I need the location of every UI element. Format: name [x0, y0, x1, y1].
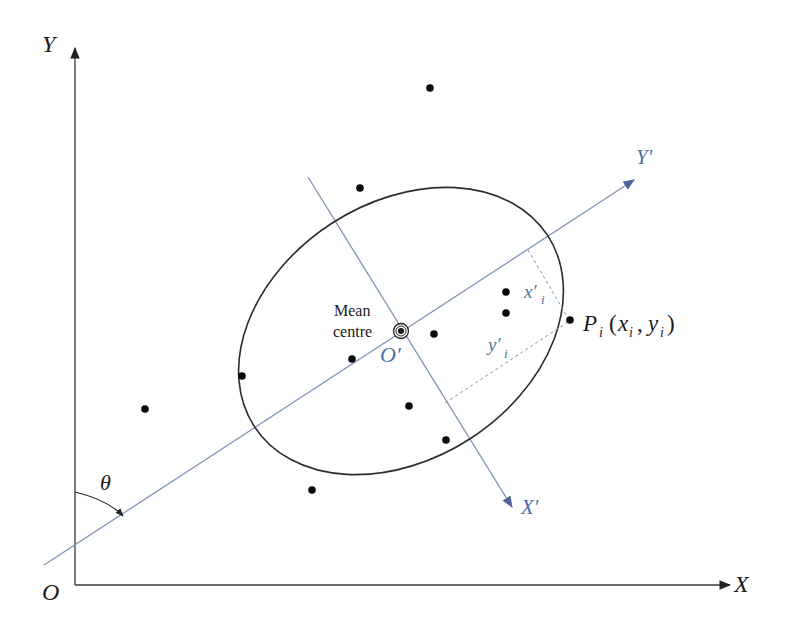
x-prime-axis	[308, 177, 512, 507]
origin-label: O	[42, 579, 59, 605]
data-points	[141, 84, 574, 494]
mean-centre-marker	[394, 324, 409, 339]
y-prime-i-label: y′ i	[486, 334, 508, 361]
mean-centre-label-line2: centre	[333, 323, 372, 340]
data-point	[426, 84, 434, 92]
point-name: P	[582, 311, 597, 336]
data-point-p-i	[566, 316, 574, 324]
y-prime-axis-label: Y′	[636, 145, 653, 169]
y-prime-projection-line	[445, 322, 568, 403]
coord-y-subscript: i	[660, 325, 664, 340]
theta-angle-arc	[75, 492, 123, 516]
data-point	[348, 355, 356, 363]
coord-x: x	[617, 311, 629, 336]
data-point	[308, 486, 316, 494]
data-point	[430, 330, 438, 338]
coords-open-paren: (	[609, 311, 617, 336]
data-point	[356, 184, 364, 192]
point-subscript: i	[599, 325, 603, 340]
x-prime-i-label: x′ i	[523, 281, 545, 307]
x-prime-text: x′	[523, 281, 537, 302]
mean-centre-label-line1: Mean	[334, 302, 370, 319]
y-axis-label: Y	[42, 31, 58, 57]
theta-label: θ	[100, 470, 111, 495]
y-prime-subscript: i	[504, 346, 508, 361]
x-prime-axis-label: X′	[520, 495, 539, 519]
point-p-i-label: P i ( x i , y i )	[582, 311, 675, 340]
coord-y: y	[646, 311, 659, 336]
coord-x-subscript: i	[629, 325, 633, 340]
data-point	[442, 436, 450, 444]
standard-deviational-ellipse-diagram: Y X O θ Y′ X′ O′ Mean centre x′ i y′ i P…	[0, 0, 794, 631]
data-point	[502, 309, 510, 317]
data-point	[141, 405, 149, 413]
y-prime-text: y′	[486, 334, 501, 355]
y-prime-axis	[44, 180, 634, 565]
coords-comma: ,	[637, 311, 643, 336]
data-point	[238, 372, 246, 380]
x-prime-subscript: i	[541, 292, 545, 307]
data-point	[405, 402, 413, 410]
mean-centre-origin-label: O′	[380, 342, 402, 367]
data-point	[502, 288, 510, 296]
x-axis-label: X	[733, 571, 750, 597]
coords-close-paren: )	[667, 311, 675, 336]
